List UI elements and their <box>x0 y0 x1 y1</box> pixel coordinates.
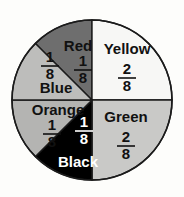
pie-chart-svg: Red Yellow Green Black Orange Blue 1 8 2… <box>0 0 184 197</box>
fraction-numerator-red: 1 <box>79 52 87 69</box>
slice-label-yellow: Yellow <box>104 40 151 57</box>
fraction-numerator-black: 1 <box>80 113 88 130</box>
fraction-denominator-yellow: 8 <box>123 77 131 94</box>
pie-slice-yellow[interactable] <box>92 20 172 100</box>
fraction-numerator-blue: 1 <box>46 48 54 65</box>
slice-label-black: Black <box>58 153 99 170</box>
slice-label-green: Green <box>104 108 147 125</box>
fraction-denominator-orange: 8 <box>48 133 56 150</box>
fraction-numerator-green: 2 <box>122 128 130 145</box>
slice-label-blue: Blue <box>40 79 73 96</box>
fraction-denominator-black: 8 <box>80 130 88 147</box>
fraction-denominator-green: 8 <box>122 145 130 162</box>
fraction-numerator-yellow: 2 <box>123 60 131 77</box>
fraction-denominator-blue: 8 <box>46 65 54 82</box>
fraction-denominator-red: 8 <box>79 69 87 86</box>
spinner-pie-chart: Red Yellow Green Black Orange Blue 1 8 2… <box>0 0 184 197</box>
slice-label-orange: Orange <box>32 101 85 118</box>
fraction-numerator-orange: 1 <box>48 116 56 133</box>
